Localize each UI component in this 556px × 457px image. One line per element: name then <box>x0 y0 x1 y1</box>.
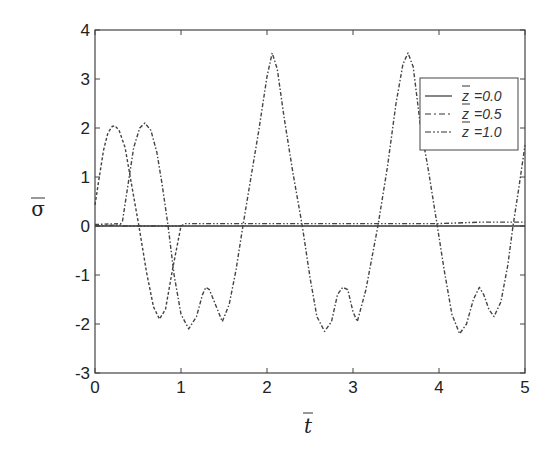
y-tick-label: -3 <box>75 364 90 383</box>
y-tick-label: 3 <box>81 70 90 89</box>
y-tick-label: -2 <box>75 315 90 334</box>
y-tick-label: 1 <box>81 168 90 187</box>
y-tick-label: 2 <box>81 119 90 138</box>
y-tick-label: 0 <box>81 217 90 236</box>
legend-var: z <box>461 106 469 122</box>
y-tick-label: 4 <box>81 21 90 40</box>
legend-label: =0.0 <box>474 88 502 104</box>
x-axis-label-text: t <box>304 414 313 438</box>
series-line-0 <box>95 126 181 320</box>
x-tick-label: 3 <box>348 378 357 397</box>
y-tick-label: -1 <box>75 266 90 285</box>
x-axis-label: t <box>303 413 313 438</box>
chart: 012345-3-2-101234 t σ z =0.0 z =0.5 z =1… <box>0 0 556 457</box>
x-tick-label: 5 <box>520 378 529 397</box>
x-tick-label: 4 <box>434 378 443 397</box>
y-axis-label-text: σ <box>31 197 45 221</box>
legend-var: z <box>461 88 469 104</box>
x-tick-label: 0 <box>90 378 99 397</box>
x-tick-label: 2 <box>262 378 271 397</box>
y-axis-label: σ <box>31 197 45 221</box>
legend-label: =0.5 <box>474 106 502 122</box>
legend-label: =1.0 <box>474 124 502 140</box>
legend: z =0.0 z =0.5 z =1.0 <box>420 78 518 150</box>
x-tick-label: 1 <box>176 378 185 397</box>
legend-var: z <box>461 124 469 140</box>
tick-labels: 012345-3-2-101234 <box>75 21 530 397</box>
